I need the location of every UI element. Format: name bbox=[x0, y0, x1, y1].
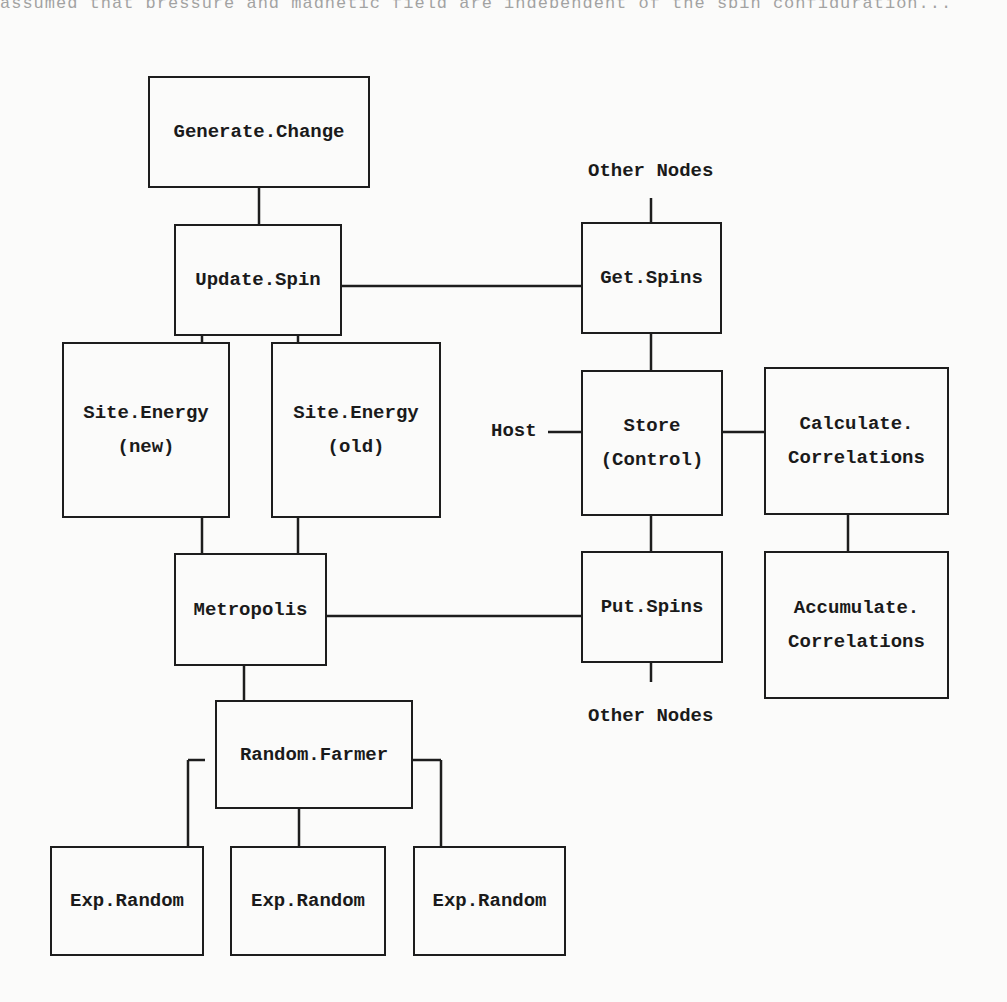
node-accumulate-correlations: Accumulate.Correlations bbox=[764, 551, 949, 699]
node-calculate-correlations: Calculate.Correlations bbox=[764, 367, 949, 515]
node-site-energy-old: Site.Energy(old) bbox=[271, 342, 441, 518]
node-site-energy-new: Site.Energy(new) bbox=[62, 342, 230, 518]
node-label-line: Random.Farmer bbox=[240, 738, 388, 772]
node-label-line: (old) bbox=[327, 430, 384, 464]
node-label-line: Correlations bbox=[788, 625, 925, 659]
label-other-nodes-top: Other Nodes bbox=[588, 160, 713, 182]
node-label-line: Update.Spin bbox=[195, 263, 320, 297]
node-exp-random-1: Exp.Random bbox=[50, 846, 204, 956]
node-label-line: Exp.Random bbox=[432, 884, 546, 918]
node-label-line: (Control) bbox=[601, 443, 704, 477]
label-host: Host bbox=[491, 420, 537, 442]
node-label-line: Store bbox=[623, 409, 680, 443]
node-get-spins: Get.Spins bbox=[581, 222, 722, 334]
node-exp-random-2: Exp.Random bbox=[230, 846, 386, 956]
node-random-farmer: Random.Farmer bbox=[215, 700, 413, 809]
node-label-line: Accumulate. bbox=[794, 591, 919, 625]
node-label-line: Generate.Change bbox=[173, 115, 344, 149]
node-label-line: Site.Energy bbox=[83, 396, 208, 430]
node-generate-change: Generate.Change bbox=[148, 76, 370, 188]
node-put-spins: Put.Spins bbox=[581, 551, 723, 663]
node-label-line: Exp.Random bbox=[70, 884, 184, 918]
node-update-spin: Update.Spin bbox=[174, 224, 342, 336]
node-label-line: Metropolis bbox=[193, 593, 307, 627]
node-metropolis: Metropolis bbox=[174, 553, 327, 666]
node-exp-random-3: Exp.Random bbox=[413, 846, 566, 956]
node-label-line: Correlations bbox=[788, 441, 925, 475]
node-store-control: Store(Control) bbox=[581, 370, 723, 516]
label-other-nodes-bottom: Other Nodes bbox=[588, 705, 713, 727]
node-label-line: Calculate. bbox=[799, 407, 913, 441]
node-label-line: Exp.Random bbox=[251, 884, 365, 918]
node-label-line: Site.Energy bbox=[293, 396, 418, 430]
node-label-line: Get.Spins bbox=[600, 261, 703, 295]
node-label-line: Put.Spins bbox=[601, 590, 704, 624]
node-label-line: (new) bbox=[117, 430, 174, 464]
